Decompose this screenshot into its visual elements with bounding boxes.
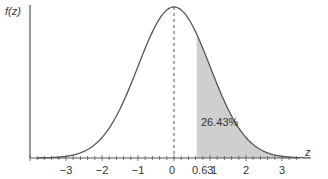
x-tick-label: 1: [211, 164, 217, 176]
x-axis-label: z: [304, 146, 311, 158]
normal-distribution-chart: −3−2−100.63123 f(z) z 26.43%: [0, 0, 328, 179]
x-axis-tick-labels: −3−2−100.63123: [60, 164, 285, 176]
x-tick-label: −1: [132, 164, 145, 176]
y-axis-label: f(z): [5, 5, 21, 17]
x-tick-label: 0: [169, 164, 175, 176]
area-percentage-label: 26.43%: [201, 116, 239, 128]
x-tick-label: −3: [60, 164, 73, 176]
x-tick-label: −2: [96, 164, 109, 176]
x-tick-label: 2: [243, 164, 249, 176]
shaded-tail-area: [197, 34, 311, 158]
x-tick-label: 3: [279, 164, 285, 176]
